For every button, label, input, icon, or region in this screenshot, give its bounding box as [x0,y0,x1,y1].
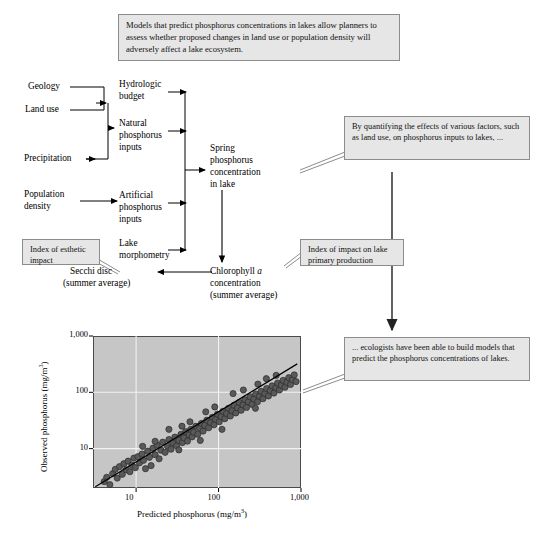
y-axis-title-tail: ) [39,362,49,365]
y-tick-label: 10 [58,443,88,452]
x-tick-label: 1,000 [290,493,309,502]
x-axis-title-base: Predicted phosphorus (mg/m [137,509,241,519]
y-tick-label: 1,000 [58,330,88,339]
plot-area [93,336,301,488]
y-axis-title-sup: 3 [38,365,44,368]
x-tick-label: 10 [125,493,133,502]
y-axis-title-base: Observed phosphorus (mg/m [39,368,49,473]
x-tick-label: 100 [208,493,221,502]
figure-canvas: Models that predict phosphorus concentra… [0,0,536,535]
x-axis-title-tail: ) [244,509,247,519]
x-axis-title: Predicted phosphorus (mg/m3) [137,508,247,519]
scatter-chart: Observed phosphorus (mg/m3) Predicted ph… [0,0,536,535]
y-axis-title: Observed phosphorus (mg/m3) [38,362,49,473]
y-tick-label: 100 [58,386,88,395]
